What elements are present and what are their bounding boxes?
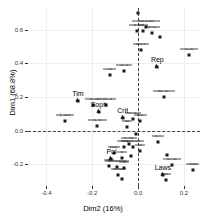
y-tick-label: -0.2 <box>13 161 23 167</box>
y-tick-mark <box>25 131 28 132</box>
data-point <box>135 29 138 32</box>
point-annotation: u-u- <box>137 112 144 116</box>
point-annotation: u <box>121 150 123 154</box>
y-tick-mark <box>25 97 28 98</box>
point-annotation: -u--u- <box>92 117 102 121</box>
point-annotation: u <box>141 23 143 27</box>
point-annotation: |--uuu <box>60 113 71 117</box>
point-annotation: --u- <box>106 67 113 71</box>
reference-line-horizontal <box>28 131 200 132</box>
data-point <box>126 126 129 129</box>
point-annotation: -u-u- <box>133 8 142 9</box>
data-point <box>165 178 168 181</box>
point-annotation: u--u- <box>148 25 157 29</box>
data-point <box>120 177 123 180</box>
x-tick-label: -0.2 <box>87 190 97 196</box>
data-point <box>156 141 159 144</box>
data-point <box>139 49 142 52</box>
point-annotation: u--u-uu <box>126 139 140 143</box>
point-annotation: u-u-u <box>136 42 146 46</box>
x-tick-label: 0.0 <box>134 190 142 196</box>
y-tick-label: 0.6 <box>15 27 23 33</box>
named-point-label: Pol <box>106 147 116 154</box>
gridline-horizontal <box>28 63 200 64</box>
point-annotation: uu <box>125 119 130 123</box>
data-point <box>141 30 144 33</box>
y-tick-mark <box>25 63 28 64</box>
data-point <box>151 32 154 35</box>
gridline-horizontal <box>28 30 200 31</box>
data-point-triangle <box>96 109 100 113</box>
data-point <box>139 119 142 122</box>
x-tick-mark <box>46 186 47 189</box>
plot-panel: -u-u--uu-u-uu--u-u-uu--u-u-u-u-u--u---u-… <box>28 8 200 186</box>
data-point <box>162 96 165 99</box>
data-point <box>187 53 190 56</box>
point-annotation: u <box>139 143 141 147</box>
named-point-label: Rep <box>151 56 164 63</box>
data-point <box>139 149 142 152</box>
scatter-plot-figure: -u-u--uu-u-uu--u-u-uu--u-u-u-u-u--u---u-… <box>0 0 206 220</box>
point-annotation: -u-u- <box>132 23 141 27</box>
reference-line-vertical <box>138 8 139 186</box>
point-annotation: -u- <box>163 172 168 176</box>
data-point <box>132 146 135 149</box>
x-tick-label: -0.4 <box>41 190 51 196</box>
data-point <box>136 12 139 15</box>
data-point <box>107 165 110 168</box>
data-point-triangle <box>75 97 79 101</box>
data-point <box>130 155 133 158</box>
y-tick-mark <box>25 164 28 165</box>
data-point-triangle <box>109 155 113 159</box>
data-point-triangle <box>160 171 164 175</box>
named-point-label: Soph <box>91 101 107 108</box>
point-annotation: uu--u-- <box>157 89 170 93</box>
x-tick-mark <box>138 186 139 189</box>
data-point <box>158 36 161 39</box>
point-annotation: -uuu <box>188 161 196 165</box>
data-point <box>132 118 135 121</box>
data-point <box>122 69 125 72</box>
point-annotation: u <box>123 160 125 164</box>
point-annotation: u--- <box>155 134 162 138</box>
data-point <box>117 173 120 176</box>
data-point <box>108 74 111 77</box>
point-annotation: -u--u <box>119 63 128 67</box>
named-point-label: Tim <box>72 89 83 96</box>
point-annotation: u---u- <box>167 157 177 161</box>
named-point-label: Crit <box>117 107 128 114</box>
y-axis-label: Dim1 (68.8%) <box>8 45 17 141</box>
data-point <box>96 124 99 127</box>
data-point <box>123 146 126 149</box>
data-point-triangle <box>155 64 159 68</box>
point-annotation: uu-uu <box>113 166 124 170</box>
point-annotation: -u--u- <box>184 47 194 51</box>
x-axis-label: Dim2 (16%) <box>0 204 206 213</box>
x-tick-label: 0.2 <box>180 190 188 196</box>
x-tick-mark <box>184 186 185 189</box>
data-point <box>191 168 194 171</box>
named-point-label: Laws <box>155 163 171 170</box>
x-tick-mark <box>92 186 93 189</box>
data-point-triangle <box>120 115 124 119</box>
y-tick-mark <box>25 30 28 31</box>
data-point <box>135 133 138 136</box>
data-point <box>64 119 67 122</box>
